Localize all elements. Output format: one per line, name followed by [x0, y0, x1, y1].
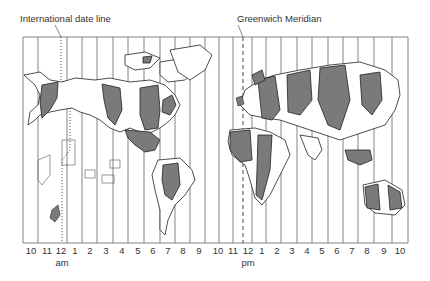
hour-tick: 12	[243, 245, 254, 256]
hour-tick: 10	[395, 245, 406, 256]
time-zone-map	[0, 0, 430, 281]
hour-tick: 10	[213, 245, 224, 256]
hour-tick: 2	[274, 245, 279, 256]
hour-tick: 1	[72, 245, 77, 256]
hour-tick: 9	[381, 245, 386, 256]
hour-tick: 8	[180, 245, 185, 256]
hour-tick: 6	[334, 245, 339, 256]
am-label: am	[55, 257, 68, 268]
north-america	[24, 52, 195, 133]
new-zealand	[50, 205, 60, 222]
hour-tick: 4	[119, 245, 124, 256]
australia	[363, 180, 405, 215]
hour-tick: 11	[228, 245, 238, 256]
hour-tick: 11	[42, 245, 52, 256]
hour-tick: 7	[349, 245, 354, 256]
hour-tick: 5	[319, 245, 324, 256]
pm-label: pm	[241, 257, 254, 268]
hour-tick: 9	[196, 245, 201, 256]
hour-tick: 12	[56, 245, 67, 256]
hour-tick: 2	[87, 245, 92, 256]
hour-tick: 8	[364, 245, 369, 256]
hour-tick: 10	[26, 245, 37, 256]
hour-tick: 3	[289, 245, 294, 256]
hour-tick: 7	[165, 245, 170, 256]
eurasia	[240, 62, 400, 140]
pacific-zone-boxes	[38, 140, 120, 185]
south-asia	[300, 135, 372, 165]
hour-tick: 3	[103, 245, 108, 256]
hour-tick: 4	[304, 245, 309, 256]
hour-tick: 6	[150, 245, 155, 256]
hour-tick: 1	[259, 245, 264, 256]
hour-tick: 5	[135, 245, 140, 256]
